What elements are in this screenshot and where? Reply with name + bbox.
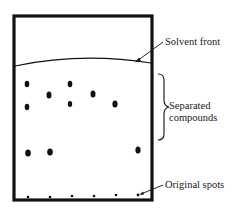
compound-spot xyxy=(135,146,140,153)
original-spot xyxy=(115,194,118,197)
compound-spot xyxy=(25,149,31,156)
compound-spot xyxy=(68,81,73,87)
compound-spot xyxy=(68,101,72,107)
compound-spot xyxy=(25,81,30,87)
original-spot xyxy=(137,194,140,197)
compound-spot xyxy=(112,100,117,107)
original-spot xyxy=(27,196,30,199)
arrowhead-icon xyxy=(140,192,145,196)
separated-compound-spots xyxy=(25,81,141,157)
solvent-front-pointer xyxy=(135,42,163,63)
original-spot xyxy=(93,195,96,198)
solvent-front-line xyxy=(15,58,151,66)
separated-compounds-label-line2: compounds xyxy=(169,112,217,124)
solvent-front-label: Solvent front xyxy=(165,36,220,48)
compound-spot xyxy=(91,91,96,98)
original-spots-label: Original spots xyxy=(165,179,224,191)
compound-spot xyxy=(47,148,53,155)
curly-brace-icon xyxy=(158,74,169,140)
compound-spot xyxy=(25,104,30,110)
original-spot xyxy=(71,195,74,198)
original-spot xyxy=(49,196,52,199)
compound-spot xyxy=(47,92,52,99)
original-spots-row xyxy=(27,194,140,199)
tlc-plate xyxy=(14,16,152,200)
separated-compounds-label-line1: Separated xyxy=(169,100,210,112)
